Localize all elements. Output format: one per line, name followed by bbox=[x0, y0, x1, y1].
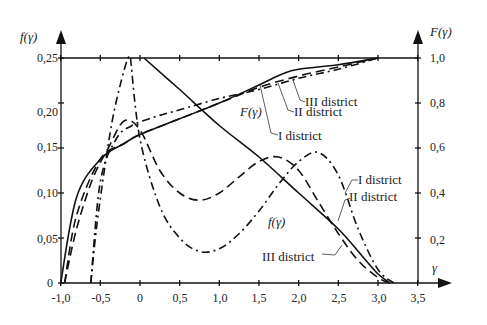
y-right-tick: 0,6 bbox=[430, 140, 445, 154]
y-left-tick: 0,15 bbox=[37, 140, 58, 154]
x-arrow-icon bbox=[438, 278, 452, 288]
y-left-title: f(γ) bbox=[20, 29, 37, 44]
x-tick: 1,5 bbox=[252, 291, 267, 305]
label-f-II-district: II district bbox=[349, 189, 397, 204]
y-left-tick: 0,05 bbox=[37, 232, 58, 246]
x-tick: 1,0 bbox=[213, 291, 228, 305]
x-tick: 0 bbox=[137, 291, 143, 305]
label-f-I-district: I district bbox=[358, 172, 402, 187]
y-right-title: F(γ) bbox=[429, 24, 452, 39]
x-tick: 0,5 bbox=[173, 291, 188, 305]
curve-f-ii-district bbox=[65, 120, 390, 283]
y-right-tick: 1,0 bbox=[430, 51, 445, 65]
x-tick-labels: -1,0 -0,5 0 0,5 1,0 1,5 2,0 2,5 3,0 3,5 bbox=[52, 291, 426, 305]
y-right-tick: 0,4 bbox=[430, 186, 445, 200]
axes bbox=[56, 30, 452, 288]
x-tick: 2,5 bbox=[332, 291, 347, 305]
y-left-tick-labels: 0 0,05 0,10 0,15 0,20 0,25 bbox=[37, 51, 58, 290]
curves bbox=[61, 56, 394, 283]
x-tick: 3,0 bbox=[372, 291, 387, 305]
y-left-tick: 0,25 bbox=[37, 51, 58, 65]
leader-F-I bbox=[260, 85, 278, 135]
x-tick: 3,5 bbox=[411, 291, 426, 305]
x-tick: -1,0 bbox=[52, 291, 71, 305]
y-right-arrow-icon bbox=[413, 30, 423, 44]
x-title: γ bbox=[432, 260, 438, 275]
label-F-II-district: II district bbox=[294, 104, 342, 119]
label-F-curve: F(γ) bbox=[239, 104, 262, 119]
y-right-tick: 0,8 bbox=[430, 96, 445, 110]
y-left-tick: 0 bbox=[47, 276, 53, 290]
x-tick: -0,5 bbox=[92, 291, 111, 305]
y-left-tick: 0,20 bbox=[37, 105, 58, 119]
leader-F-II bbox=[278, 83, 294, 112]
y-right-tick: 0,2 bbox=[430, 233, 445, 247]
label-f-curve: f(γ) bbox=[268, 214, 285, 229]
leader-f-III bbox=[322, 245, 342, 255]
label-f-III-district: III district bbox=[262, 249, 315, 264]
label-F-I-district: I district bbox=[278, 128, 322, 143]
y-right-tick-labels: 0,2 0,4 0,6 0,8 1,0 bbox=[430, 51, 445, 247]
x-tick: 2,0 bbox=[292, 291, 307, 305]
y-left-tick: 0,10 bbox=[37, 186, 58, 200]
tick-marks bbox=[58, 55, 421, 286]
leader-F-III bbox=[293, 80, 305, 102]
curve-f-ii-district bbox=[65, 58, 378, 283]
distribution-chart: -1,0 -0,5 0 0,5 1,0 1,5 2,0 2,5 3,0 3,5 … bbox=[0, 0, 487, 325]
y-left-arrow-icon bbox=[56, 30, 66, 44]
